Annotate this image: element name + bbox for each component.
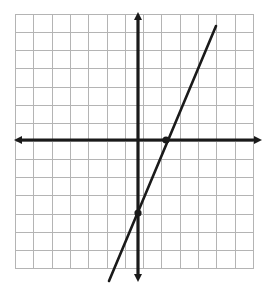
figure-background — [0, 0, 269, 293]
point-y-intercept — [134, 209, 141, 216]
coordinate-plane-figure — [0, 0, 269, 293]
point-x-intercept — [162, 136, 169, 143]
graph-canvas — [0, 0, 269, 293]
